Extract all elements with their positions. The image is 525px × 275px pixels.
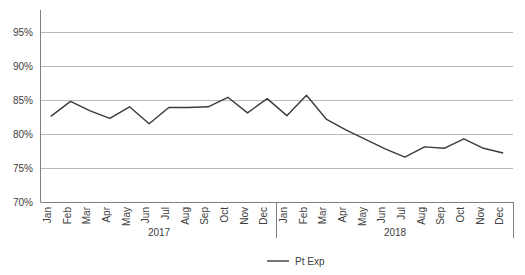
x-tick-label-oct-2017: Oct	[219, 207, 230, 223]
x-tick-label-aug-2018: Aug	[416, 207, 427, 225]
y-tick-label: 90%	[13, 61, 33, 72]
year-label-2017: 2017	[148, 227, 171, 238]
x-tick-label-feb-2018: Feb	[298, 207, 309, 225]
chart-legend: Pt Exp	[267, 256, 325, 267]
x-tick-label-may-2017: May	[121, 207, 132, 226]
x-tick-label-apr-2017: Apr	[101, 206, 112, 222]
x-tick-label-aug-2017: Aug	[180, 207, 191, 225]
chart-canvas: 70%75%80%85%90%95% JanFebMarAprMayJunJul…	[0, 0, 525, 275]
x-tick-label-jan-2018: Jan	[278, 207, 289, 223]
x-tick-label-jun-2018: Jun	[376, 207, 387, 223]
x-axis-year-labels: 20172018	[148, 227, 407, 238]
x-tick-label-jun-2017: Jun	[140, 207, 151, 223]
x-tick-label-apr-2018: Apr	[337, 206, 348, 222]
x-tick-label-oct-2018: Oct	[455, 207, 466, 223]
x-tick-label-nov-2017: Nov	[239, 207, 250, 225]
x-tick-label-jul-2018: Jul	[396, 207, 407, 220]
y-axis-tick-labels: 70%75%80%85%90%95%	[13, 27, 33, 208]
x-tick-label-mar-2017: Mar	[81, 206, 92, 224]
x-tick-label-nov-2018: Nov	[475, 207, 486, 225]
series-line-pt-exp	[51, 95, 503, 157]
y-tick-label: 75%	[13, 163, 33, 174]
legend-label: Pt Exp	[295, 256, 325, 267]
x-tick-label-mar-2018: Mar	[317, 206, 328, 224]
year-label-2018: 2018	[384, 227, 407, 238]
y-tick-label: 95%	[13, 27, 33, 38]
x-tick-label-dec-2018: Dec	[494, 207, 505, 225]
y-tick-label: 85%	[13, 95, 33, 106]
x-axis-month-labels: JanFebMarAprMayJunJulAugSepOctNovDecJanF…	[42, 206, 505, 226]
line-chart: 70%75%80%85%90%95% JanFebMarAprMayJunJul…	[0, 0, 525, 275]
x-tick-label-dec-2017: Dec	[258, 207, 269, 225]
y-tick-label: 80%	[13, 129, 33, 140]
x-tick-label-sep-2017: Sep	[199, 207, 210, 225]
y-tick-label: 70%	[13, 197, 33, 208]
x-tick-label-sep-2018: Sep	[435, 207, 446, 225]
x-tick-label-jul-2017: Jul	[160, 207, 171, 220]
x-tick-label-may-2018: May	[357, 207, 368, 226]
x-tick-label-feb-2017: Feb	[62, 207, 73, 225]
series-lines	[51, 95, 503, 157]
x-tick-label-jan-2017: Jan	[42, 207, 53, 223]
